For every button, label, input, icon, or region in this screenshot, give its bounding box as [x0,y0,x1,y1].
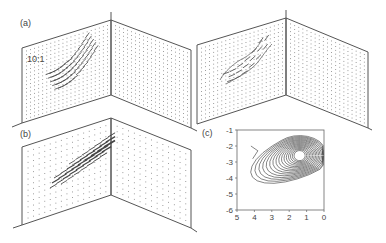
grid-dot [63,107,64,108]
grid-dot [100,138,101,139]
grid-dot [205,50,206,51]
grid-dot [105,169,106,170]
grid-dot [242,78,243,79]
grid-dot [262,76,263,77]
grid-dot [352,87,353,88]
grid-dot [143,85,144,86]
grid-dot [331,98,332,99]
grid-dot [258,42,259,43]
grid-dot [356,62,357,63]
grid-dot [115,89,116,90]
grid-dot [115,29,116,30]
grid-dot [140,135,141,136]
grid-dot [307,53,308,54]
grid-dot [28,195,29,196]
grid-dot [254,59,255,60]
grid-dot [117,126,118,127]
grid-dot [183,117,184,118]
grid-dot [91,34,92,35]
grid-dot [356,108,357,109]
grid-dot [105,131,106,132]
grid-dot [229,43,230,44]
grid-dot [339,105,340,106]
grid-dot [46,78,47,79]
grid-dot [26,54,27,55]
grid-dot [83,149,84,150]
grid-dot [50,155,51,156]
grid-dot [278,86,279,87]
grid-dot [58,100,59,101]
grid-dot [167,110,168,111]
grid-dot [360,102,361,103]
grid-dot [159,99,160,100]
grid-dot [174,177,175,178]
grid-dot [83,81,84,82]
grid-dot [339,94,340,95]
grid-dot [282,81,283,82]
grid-dot [201,52,202,53]
grid-dot [213,79,214,80]
grid-dot [213,76,214,77]
grid-dot [147,98,148,99]
grid-dot [221,112,222,113]
grid-dot [213,60,214,61]
x-tick-label: 0 [322,213,327,222]
grid-dot [238,76,239,77]
grid-dot [54,49,55,50]
grid-dot [157,203,158,204]
grid-dot [290,62,291,63]
grid-dot [343,103,344,104]
grid-dot [171,112,172,113]
grid-dot [290,54,291,55]
grid-dot [143,66,144,67]
grid-dot [131,96,132,97]
grid-dot [360,94,361,95]
grid-dot [262,95,263,96]
grid-dot [95,40,96,41]
grid-dot [302,40,303,41]
grid-dot [278,82,279,83]
grid-dot [134,138,135,139]
grid-dot [319,47,320,48]
grid-dot [54,45,55,46]
grid-dot [205,70,206,71]
grid-dot [139,57,140,58]
grid-dot [46,59,47,60]
grid-dot [155,83,156,84]
grid-dot [238,80,239,81]
grid-dot [145,176,146,177]
grid-dot [302,67,303,68]
grid-dot [34,52,35,53]
grid-dot [163,90,164,91]
grid-dot [356,81,357,82]
grid-dot [94,162,95,163]
grid-dot [294,29,295,30]
grid-dot [135,90,136,91]
grid-dot [159,80,160,81]
figure-canvas: (a) 10:1 (b) (c) 543210-1-2-3-4-5-6 [0,0,386,243]
grid-dot [270,73,271,74]
grid-dot [225,40,226,41]
grid-dot [294,45,295,46]
grid-dot [343,91,344,92]
grid-dot [254,43,255,44]
grid-dot [95,70,96,71]
grid-dot [327,73,328,74]
grid-dot [128,175,129,176]
grid-dot [331,71,332,72]
grid-dot [327,92,328,93]
grid-dot [105,136,106,137]
grid-dot [127,41,128,42]
grid-dot [205,58,206,59]
grid-dot [242,98,243,99]
grid-dot [103,26,104,27]
grid-dot [131,100,132,101]
grid-dot [167,91,168,92]
grid-dot [67,94,68,95]
grid-dot [50,99,51,100]
grid-dot [270,27,271,28]
grid-dot [72,186,73,187]
arrow [61,74,67,77]
arrow [242,71,248,75]
grid-dot [155,94,156,95]
